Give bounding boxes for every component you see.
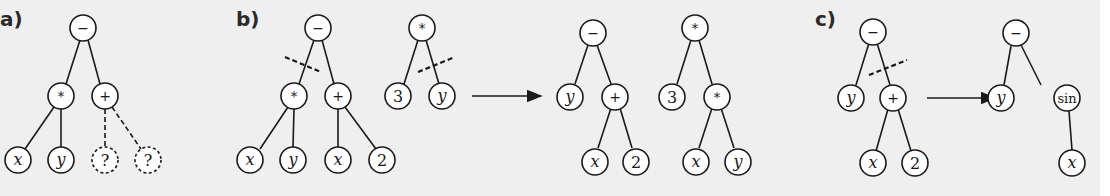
tree-node: * [682,15,708,41]
svg-text:y: y [732,152,743,171]
tree-node: − [860,19,886,45]
svg-text:−: − [77,20,89,36]
svg-text:y: y [436,86,447,105]
svg-text:*: * [291,88,298,104]
svg-text:?: ? [101,151,110,170]
svg-text:−: − [867,24,879,40]
tree-node: y [725,149,751,175]
tree-node: x [683,149,709,175]
svg-text:sin: sin [1057,91,1077,106]
panel-b-tree-1-edges [260,40,376,149]
svg-text:x: x [333,150,342,169]
tree-node: y [838,85,864,111]
svg-text:+: + [887,90,899,106]
panel-label-b: b) [236,7,259,31]
expression-tree-figure: a) − * + x y ? ? b) − * + x [0,0,1100,196]
svg-text:3: 3 [667,88,677,107]
svg-text:−: − [312,20,324,36]
tree-diagram: a) − * + x y ? ? b) − * + x [0,0,1100,196]
tree-node: 2 [623,149,649,175]
mutation-cut-line [869,60,907,75]
tree-node: x [325,147,351,173]
tree-node: x [860,150,886,176]
tree-node: − [305,15,331,41]
tree-node: y [988,85,1014,111]
svg-text:x: x [245,150,254,169]
svg-text:y: y [564,87,575,106]
tree-node: + [92,83,118,109]
tree-node: − [70,15,96,41]
svg-text:+: + [332,88,344,104]
placeholder-node: ? [135,147,161,173]
svg-text:+: + [609,89,621,105]
tree-node: * [704,84,730,110]
panel-b: b) − * + x y x 2 * 3 y [236,7,751,175]
tree-node: + [602,84,628,110]
svg-text:y: y [845,88,856,107]
svg-text:+: + [99,88,111,104]
svg-text:y: y [55,150,66,169]
panel-a-edges [25,40,141,149]
svg-text:y: y [995,88,1006,107]
panel-a: a) − * + x y ? ? [0,7,161,173]
tree-node: sin [1054,85,1080,111]
svg-text:2: 2 [910,154,920,173]
panel-label-a: a) [0,7,23,31]
tree-node: * [409,15,435,41]
svg-text:*: * [419,20,426,36]
svg-text:3: 3 [393,87,403,106]
tree-node: * [281,83,307,109]
svg-text:x: x [691,152,700,171]
crossover-cut-line [285,57,321,72]
svg-text:2: 2 [377,151,387,170]
tree-node: y [429,83,455,109]
tree-node: + [880,85,906,111]
svg-text:x: x [13,150,22,169]
tree-node: x [5,147,31,173]
svg-text:*: * [692,20,699,36]
tree-node: y [48,147,74,173]
tree-node: 2 [902,150,928,176]
tree-node: y [557,84,583,110]
svg-text:x: x [868,153,877,172]
tree-node: x [1059,150,1085,176]
tree-node: 3 [385,83,411,109]
svg-text:*: * [58,88,65,104]
tree-node: 2 [369,147,395,173]
tree-node: * [48,83,74,109]
tree-node: − [1003,20,1029,46]
crossover-cut-line [418,57,455,72]
panel-b-tree-2-edges [404,40,439,84]
svg-text:x: x [590,152,599,171]
tree-node: x [582,149,608,175]
tree-node: x [237,147,263,173]
panel-label-c: c) [815,7,836,31]
tree-node: y [280,147,306,173]
panel-c: c) − y + x 2 − y sin x [815,7,1085,176]
placeholder-node: ? [92,147,118,173]
svg-text:?: ? [144,151,153,170]
tree-node: − [580,20,606,46]
tree-node: 3 [659,84,685,110]
svg-text:x: x [1067,153,1076,172]
svg-text:−: − [587,25,599,41]
svg-text:*: * [714,89,721,105]
svg-text:−: − [1010,25,1022,41]
svg-text:2: 2 [631,153,641,172]
svg-text:y: y [287,150,298,169]
tree-node: + [325,83,351,109]
